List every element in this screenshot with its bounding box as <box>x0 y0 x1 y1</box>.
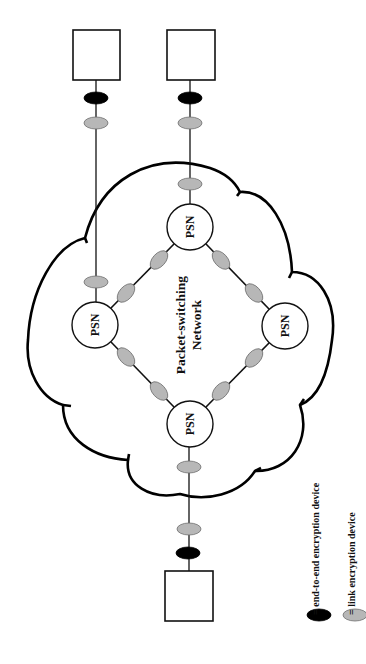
link-encryption-device <box>177 461 201 473</box>
legend-end-to-end-label: = end-to-end encryption device <box>310 482 321 615</box>
cloud-notch <box>128 454 129 460</box>
link-encryption-device <box>178 178 202 190</box>
legend: = end-to-end encryption device = link en… <box>307 482 366 621</box>
legend-link-label: = link encryption device <box>346 512 357 615</box>
cloud-notch <box>237 192 240 196</box>
psn-node-top: PSN <box>167 204 213 250</box>
network-label: Packet-switching Network <box>173 276 204 374</box>
cloud-notch <box>85 238 87 243</box>
psn-label: PSN <box>183 215 197 238</box>
link-encryption-device <box>84 117 108 129</box>
cloud-notch <box>63 405 71 406</box>
link-encryption-device <box>84 276 108 288</box>
encryption-network-diagram: PSN PSN PSN PSN Packet-switching Network… <box>0 0 366 664</box>
link-encryption-device <box>178 117 202 129</box>
host-top-left <box>73 30 120 80</box>
host-bottom <box>165 571 213 621</box>
psn-node-right: PSN <box>262 303 308 349</box>
link-encryption-device <box>177 523 201 535</box>
psn-label: PSN <box>88 313 102 336</box>
cloud-notch <box>289 272 292 278</box>
host-top-right <box>167 30 215 80</box>
network-label-line1: Packet-switching <box>173 276 188 374</box>
psn-label: PSN <box>278 314 292 337</box>
end-to-end-encryption-device <box>176 547 200 559</box>
end-to-end-encryption-device <box>178 92 202 104</box>
psn-node-left: PSN <box>72 302 118 348</box>
psn-label: PSN <box>183 412 197 435</box>
network-label-line2: Network <box>189 299 204 350</box>
psn-node-bottom: PSN <box>167 401 213 447</box>
end-to-end-encryption-device <box>84 92 108 104</box>
